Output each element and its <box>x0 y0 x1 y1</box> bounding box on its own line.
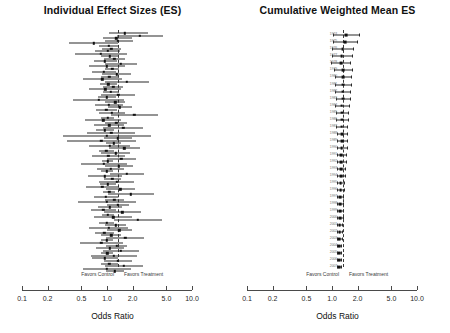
favors-control-label-cumulative: Favors Control <box>269 271 339 277</box>
year-label: 1977 <box>313 55 337 58</box>
year-label: 1998 <box>313 202 337 205</box>
plot-area-cumulative: 1974197519761977197819791980198119821983… <box>225 28 450 273</box>
year-label: 1990 <box>313 146 337 149</box>
forest-plot-figure: Individual Effect Sizes (ES) Favors Cont… <box>0 0 450 333</box>
axis-tick-label: 5.0 <box>162 295 172 302</box>
year-label: 1986 <box>313 118 337 121</box>
axis-tick-label: 0.5 <box>77 295 87 302</box>
axis-tick-label: 5.0 <box>387 295 397 302</box>
year-label: 1996 <box>313 188 337 191</box>
year-label: 1987 <box>313 125 337 128</box>
year-label: 1992 <box>313 160 337 163</box>
axis-tick <box>332 286 333 290</box>
year-label: 2000 <box>313 216 337 219</box>
favors-control-label-individual: Favors Control <box>44 271 114 277</box>
plot-area-individual <box>0 28 225 273</box>
year-label: 1999 <box>313 209 337 212</box>
year-label: 1975 <box>313 41 337 44</box>
confidence-interval-whisker <box>109 33 148 34</box>
year-label-column: 1974197519761977197819791980198119821983… <box>225 28 450 273</box>
panel-title-cumulative: Cumulative Weighted Mean ES <box>225 4 450 16</box>
year-label: 1980 <box>313 76 337 79</box>
year-label: 2002 <box>313 230 337 233</box>
axis-baseline <box>22 290 192 291</box>
year-label: 1994 <box>313 174 337 177</box>
favors-treatment-label-individual: Favors Treatment <box>124 271 204 277</box>
confidence-interval-whisker <box>103 38 132 39</box>
year-label: 2004 <box>313 245 337 248</box>
year-label: 2005 <box>313 252 337 255</box>
axis-tick <box>166 286 167 290</box>
axis-tick-label: 2.0 <box>128 295 138 302</box>
year-label: 1989 <box>313 139 337 142</box>
axis-tick-label: 10.0 <box>410 295 424 302</box>
forest-rows-individual <box>0 28 225 273</box>
year-label: 1976 <box>313 48 337 51</box>
axis-tick <box>358 286 359 290</box>
axis-tick <box>81 286 82 290</box>
axis-tick <box>22 286 23 290</box>
axis-tick <box>48 286 49 290</box>
axis-tick <box>391 286 392 290</box>
axis-tick-label: 0.1 <box>17 295 27 302</box>
axis-tick <box>417 286 418 290</box>
favors-treatment-label-cumulative: Favors Treatment <box>349 271 429 277</box>
axis-tick <box>133 286 134 290</box>
year-label: 2006 <box>313 259 337 262</box>
axis-tick-label: 1.0 <box>102 295 112 302</box>
panel-individual-effect-sizes: Individual Effect Sizes (ES) Favors Cont… <box>0 0 225 333</box>
year-label: 1985 <box>313 111 337 114</box>
year-label: 2007 <box>313 266 337 269</box>
year-label: 1991 <box>313 153 337 156</box>
year-label: 2003 <box>313 237 337 240</box>
axis-tick <box>192 286 193 290</box>
year-label: 1984 <box>313 104 337 107</box>
year-label: 1981 <box>313 83 337 86</box>
year-label: 1988 <box>313 132 337 135</box>
point-estimate-marker <box>114 270 116 272</box>
axis-tick-label: 2.0 <box>353 295 363 302</box>
x-axis-title-cumulative: Odds Ratio <box>225 311 450 321</box>
axis-tick <box>273 286 274 290</box>
axis-tick <box>306 286 307 290</box>
axis-tick-label: 1.0 <box>327 295 337 302</box>
axis-tick-label: 0.2 <box>268 295 278 302</box>
year-label: 1974 <box>313 34 337 37</box>
year-label: 1979 <box>313 69 337 72</box>
year-label: 1983 <box>313 97 337 100</box>
axis-baseline <box>247 290 417 291</box>
year-label: 1995 <box>313 181 337 184</box>
axis-tick-label: 0.2 <box>43 295 53 302</box>
year-label: 1997 <box>313 195 337 198</box>
panel-cumulative-weighted-mean: Cumulative Weighted Mean ES 197419751976… <box>225 0 450 333</box>
axis-tick <box>247 286 248 290</box>
panel-title-individual: Individual Effect Sizes (ES) <box>0 4 225 16</box>
year-label: 2001 <box>313 223 337 226</box>
x-axis-title-individual: Odds Ratio <box>0 311 225 321</box>
year-label: 1993 <box>313 167 337 170</box>
year-label: 1982 <box>313 90 337 93</box>
axis-tick <box>107 286 108 290</box>
year-label: 1978 <box>313 62 337 65</box>
axis-tick-label: 0.1 <box>242 295 252 302</box>
axis-tick-label: 10.0 <box>185 295 199 302</box>
axis-tick-label: 0.5 <box>302 295 312 302</box>
